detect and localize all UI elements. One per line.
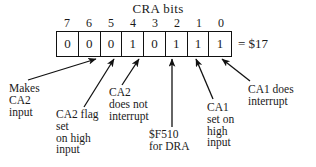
bit-cell-2: 1 [166,32,188,56]
bit-number-4: 4 [122,16,144,30]
diagram-title: CRA bits [0,1,316,17]
callout-line: interrupt [109,111,149,123]
callout-line: input [56,144,98,156]
bit-cell-1: 1 [188,32,210,56]
callout-f510-for-dra: $F510 for DRA [149,129,190,153]
hex-value-label: = $17 [238,36,268,52]
register-bit-box: 0 0 0 1 0 1 1 1 [56,31,232,57]
callout-line: set on [207,114,234,126]
bit-cell-5: 0 [101,32,123,56]
arrow-ca2-no-interrupt [122,59,139,85]
arrow-makes-ca2-input [28,59,96,80]
callout-ca1-set-on-high-input: CA1 set on high input [207,102,234,149]
cra-bits-diagram: CRA bits 7 6 5 4 3 2 1 0 0 0 0 1 0 1 1 1… [0,0,316,167]
arrow-ca1-does-interrupt [222,59,250,81]
bit-number-2: 2 [166,16,188,30]
callout-line: input [207,137,234,149]
bit-number-5: 5 [100,16,122,30]
callout-line: CA2 [9,95,40,107]
arrow-ca1-set-high [196,59,213,99]
bit-cell-0: 1 [209,32,231,56]
bit-cell-7: 0 [57,32,79,56]
callout-line: interrupt [248,96,294,108]
callout-line: input [9,107,40,119]
bit-number-1: 1 [188,16,210,30]
bit-cell-3: 0 [144,32,166,56]
callout-ca2-does-not-interrupt: CA2 does not interrupt [109,87,149,122]
bit-cell-4: 1 [122,32,144,56]
callout-ca2-flag-set-on-high-input: CA2 flag set on high input [56,109,98,156]
callout-makes-ca2-input: Makes CA2 input [9,83,40,118]
bit-number-6: 6 [78,16,100,30]
bit-number-7: 7 [56,16,78,30]
bit-number-3: 3 [144,16,166,30]
bit-number-0: 0 [210,16,232,30]
bit-number-row: 7 6 5 4 3 2 1 0 [56,16,232,30]
callout-line: for DRA [149,141,190,153]
callout-line: does not [109,99,149,111]
callout-ca1-does-interrupt: CA1 does interrupt [248,84,294,108]
callout-line: set [56,121,98,133]
bit-cell-6: 0 [79,32,101,56]
